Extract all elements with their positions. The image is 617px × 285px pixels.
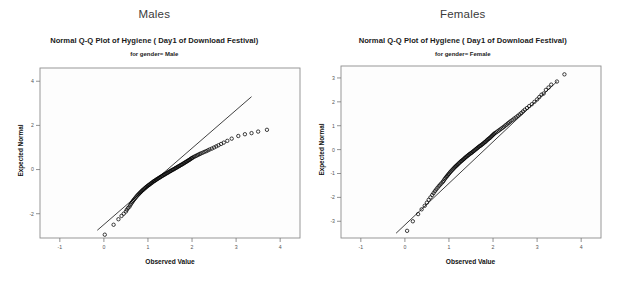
- svg-text:4: 4: [579, 244, 582, 250]
- svg-text:3: 3: [235, 244, 238, 250]
- svg-text:1: 1: [332, 123, 335, 129]
- x-axis-title-females: Observed Value: [341, 258, 601, 265]
- x-axis-title-males: Observed Value: [40, 258, 300, 265]
- males-panel: Males Normal Q-Q Plot of Hygiene ( Day1 …: [0, 0, 309, 285]
- svg-text:4: 4: [31, 78, 34, 84]
- qq-plot-figure: Males Normal Q-Q Plot of Hygiene ( Day1 …: [0, 0, 617, 285]
- svg-text:0: 0: [31, 166, 34, 172]
- svg-text:-1: -1: [58, 244, 63, 250]
- qq-plot-males: -101234420-2: [0, 0, 309, 285]
- svg-text:-2: -2: [29, 211, 34, 217]
- svg-text:2: 2: [191, 244, 194, 250]
- svg-text:4: 4: [279, 244, 282, 250]
- svg-text:2: 2: [491, 244, 494, 250]
- svg-text:1: 1: [147, 244, 150, 250]
- y-axis-title-males: Expected Normal: [17, 105, 24, 197]
- svg-text:3: 3: [332, 75, 335, 81]
- svg-text:0: 0: [102, 244, 105, 250]
- svg-text:0: 0: [403, 244, 406, 250]
- svg-text:2: 2: [31, 122, 34, 128]
- svg-text:-2: -2: [330, 194, 335, 200]
- y-axis-title-females: Expected Normal: [317, 104, 324, 196]
- svg-text:-1: -1: [358, 244, 363, 250]
- qq-plot-females: -1012343210-1-2-3: [309, 0, 617, 285]
- svg-text:1: 1: [447, 244, 450, 250]
- svg-text:-1: -1: [330, 170, 335, 176]
- svg-text:2: 2: [332, 99, 335, 105]
- svg-text:3: 3: [535, 244, 538, 250]
- svg-text:-3: -3: [330, 218, 335, 224]
- svg-text:0: 0: [332, 147, 335, 153]
- females-panel: Females Normal Q-Q Plot of Hygiene ( Day…: [309, 0, 617, 285]
